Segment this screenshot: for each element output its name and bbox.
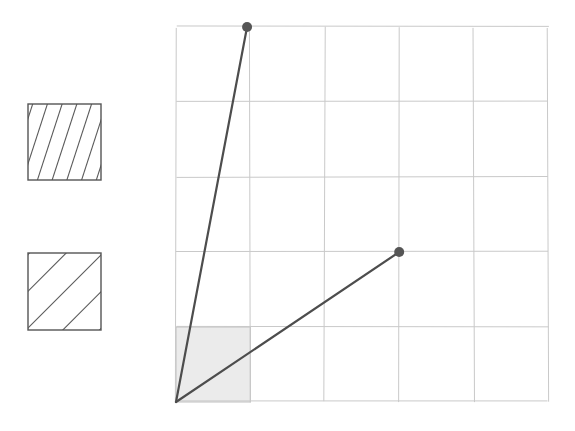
- data-point-marker-endpoint-diagonal[interactable]: [394, 247, 404, 257]
- legend-swatch-steep-hatch[interactable]: [0, 29, 137, 255]
- markers-group: [242, 22, 404, 257]
- grid-line-vertical: [547, 28, 548, 402]
- grid-line-horizontal: [176, 177, 547, 178]
- legend-swatch-diagonal-hatch[interactable]: [0, 161, 195, 421]
- grid-line-vertical: [324, 27, 325, 402]
- geometry-figure-canvas: [0, 0, 575, 431]
- legend-group: [0, 29, 195, 422]
- grid-line-vertical: [473, 28, 474, 402]
- grid-line-vertical: [399, 27, 400, 402]
- data-point-marker-endpoint-steep[interactable]: [242, 22, 252, 32]
- figure-root: [0, 0, 575, 431]
